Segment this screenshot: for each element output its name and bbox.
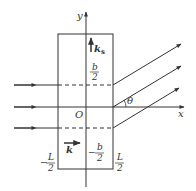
x-axis-label: x: [178, 108, 184, 119]
theta-label: θ: [127, 95, 133, 106]
diagram-canvas: θ y x O ks k b 2 − b 2 − L 2 L 2: [0, 0, 196, 191]
svg-text:b: b: [97, 142, 103, 152]
svg-text:L: L: [116, 152, 123, 162]
svg-text:2: 2: [91, 72, 98, 82]
neg-L-half-label: − L 2: [40, 152, 55, 173]
y-axis-label: y: [76, 10, 83, 21]
svg-text:b: b: [92, 62, 98, 72]
svg-text:−: −: [88, 147, 96, 157]
neg-b-half-label: − b 2: [88, 142, 104, 163]
L-half-label: L 2: [115, 152, 124, 173]
svg-text:2: 2: [116, 163, 123, 173]
theta-arc: [124, 100, 126, 107]
svg-text:2: 2: [96, 153, 103, 163]
ks-label: ks: [94, 43, 105, 56]
svg-text:L: L: [47, 152, 54, 162]
origin-label: O: [75, 109, 83, 120]
svg-text:−: −: [40, 157, 48, 167]
k-label: k: [66, 144, 73, 155]
svg-text:2: 2: [47, 163, 54, 173]
outgoing-rays: [113, 44, 181, 128]
b-half-label: b 2: [90, 62, 99, 82]
